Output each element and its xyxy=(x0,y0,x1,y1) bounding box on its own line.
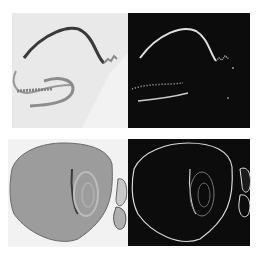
panel-bottom-right-edge xyxy=(128,139,250,246)
brain-section-edge-image xyxy=(128,139,250,246)
panel-top-left-brightfield xyxy=(12,13,128,128)
brain-section-brightfield-image xyxy=(8,139,128,247)
hippocampus-brightfield-image xyxy=(12,13,128,128)
hippocampus-edge-image xyxy=(128,13,250,128)
side-tissue-outline xyxy=(236,165,261,225)
panel-bottom-left-brightfield xyxy=(8,139,128,247)
panel-top-right-edge xyxy=(128,13,250,128)
lobe-outline-image xyxy=(236,165,261,225)
